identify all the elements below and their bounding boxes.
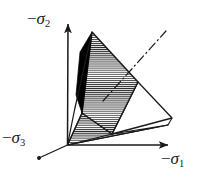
sigma-3-minus-sign: − — [2, 128, 12, 147]
principal-stress-pyramid-figure: −σ2 −σ3 −σ1 — [0, 0, 210, 178]
sigma-2-symbol: σ — [37, 9, 45, 28]
sigma-2-subscript: 2 — [45, 18, 50, 29]
pyramid-surface — [68, 32, 173, 145]
sigma-2-minus-sign: − — [27, 9, 37, 28]
sigma-1-minus-sign: − — [161, 149, 171, 168]
sigma-3-subscript: 3 — [20, 137, 25, 148]
sigma-3-axis-line — [39, 145, 68, 158]
sigma-1-subscript: 1 — [179, 158, 184, 169]
sigma-1-axis-label: −σ1 — [161, 150, 184, 169]
sigma-3-symbol: σ — [12, 128, 20, 147]
sigma-2-axis-label: −σ2 — [27, 10, 50, 29]
sigma-3-axis-label: −σ3 — [2, 129, 25, 148]
sigma-1-symbol: σ — [171, 149, 179, 168]
sigma-2-axis-line — [68, 24, 69, 145]
